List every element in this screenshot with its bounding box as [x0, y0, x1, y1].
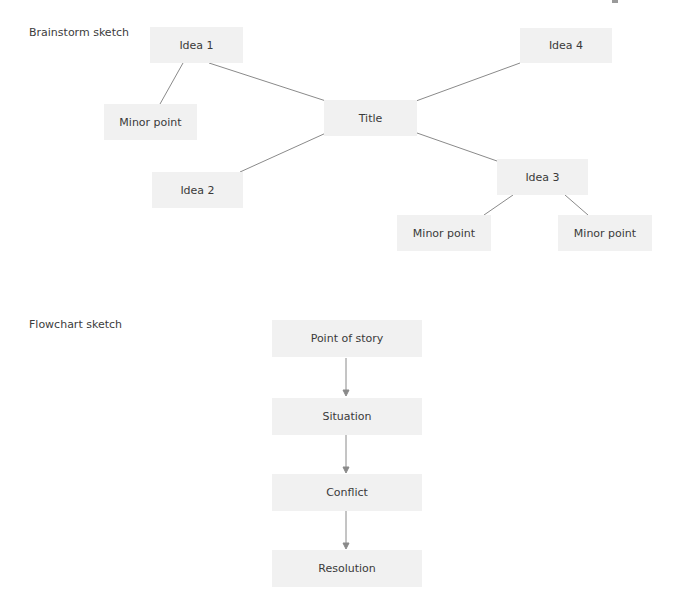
flow-step-situation[interactable]: Situation — [272, 398, 422, 435]
flowchart-arrows — [343, 358, 349, 549]
node-idea-3[interactable]: Idea 3 — [497, 159, 588, 195]
brainstorm-connectors — [0, 0, 674, 606]
connector-idea3-minor-left — [484, 195, 513, 215]
flow-step-point-of-story[interactable]: Point of story — [272, 320, 422, 357]
node-label: Minor point — [574, 227, 636, 240]
node-label: Resolution — [318, 562, 375, 575]
node-label: Minor point — [119, 116, 181, 129]
flow-step-conflict[interactable]: Conflict — [272, 474, 422, 511]
flow-step-resolution[interactable]: Resolution — [272, 550, 422, 587]
node-label: Title — [359, 112, 383, 125]
connector-idea1-minor — [160, 63, 183, 104]
node-label: Idea 3 — [525, 171, 559, 184]
node-label: Idea 4 — [549, 39, 583, 52]
connector-title-idea2 — [240, 133, 326, 172]
node-title[interactable]: Title — [324, 100, 417, 136]
brainstorm-section-label: Brainstorm sketch — [29, 26, 129, 39]
node-idea-2[interactable]: Idea 2 — [152, 172, 243, 208]
node-label: Conflict — [326, 486, 368, 499]
connector-title-idea4 — [416, 63, 520, 101]
node-idea-1-minor-point[interactable]: Minor point — [104, 104, 197, 140]
connector-idea3-minor-right — [565, 195, 588, 215]
node-idea-4[interactable]: Idea 4 — [520, 28, 612, 63]
node-label: Minor point — [413, 227, 475, 240]
node-label: Point of story — [311, 332, 384, 345]
node-label: Idea 1 — [179, 39, 213, 52]
node-label: Idea 2 — [180, 184, 214, 197]
node-idea-3-minor-point-right[interactable]: Minor point — [558, 215, 652, 251]
connector-idea1-title — [209, 63, 326, 101]
cropped-glyph-fragment — [612, 0, 618, 3]
node-idea-3-minor-point-left[interactable]: Minor point — [397, 215, 491, 251]
connector-title-idea3 — [417, 133, 497, 161]
node-label: Situation — [322, 410, 371, 423]
node-idea-1[interactable]: Idea 1 — [150, 27, 243, 63]
flowchart-section-label: Flowchart sketch — [29, 318, 122, 331]
